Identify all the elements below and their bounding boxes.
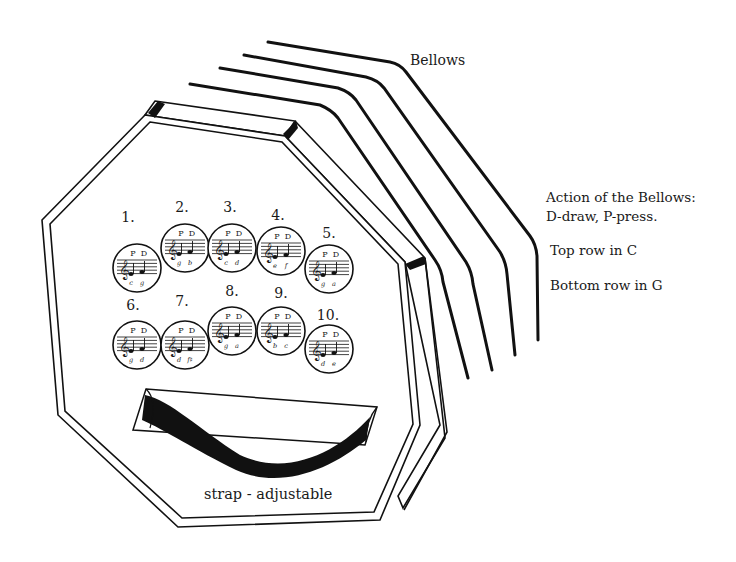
treble-clef-icon: 𝄞 bbox=[214, 321, 225, 343]
draw-marker: D bbox=[141, 326, 147, 335]
draw-marker: D bbox=[333, 330, 339, 339]
note-name: c bbox=[284, 342, 288, 350]
note-head bbox=[128, 272, 133, 276]
note-name: d bbox=[140, 356, 144, 364]
treble-clef-icon: 𝄞 bbox=[119, 258, 130, 280]
press-marker: P bbox=[178, 326, 184, 335]
press-marker: P bbox=[274, 232, 280, 241]
bottom-row-label: Bottom row in G bbox=[550, 277, 663, 293]
treble-clef-icon: 𝄞 bbox=[311, 339, 322, 361]
draw-marker: D bbox=[236, 312, 242, 321]
treble-clef-icon: 𝄞 bbox=[119, 335, 130, 357]
legend-key: D-draw, P-press. bbox=[546, 207, 696, 226]
note-name: d bbox=[177, 356, 181, 364]
draw-marker: D bbox=[141, 249, 147, 258]
note-name: c bbox=[224, 259, 228, 267]
button-number: 5. bbox=[322, 225, 335, 241]
button-number: 6. bbox=[126, 297, 139, 313]
press-marker: P bbox=[225, 312, 231, 321]
draw-marker: D bbox=[189, 229, 195, 238]
note-name: g bbox=[140, 279, 144, 287]
draw-marker: D bbox=[333, 250, 339, 259]
bellows-label: Bellows bbox=[410, 52, 465, 68]
strap-label: strap - adjustable bbox=[204, 486, 332, 502]
press-marker: P bbox=[322, 330, 328, 339]
button-number: 10. bbox=[317, 307, 339, 323]
note-head bbox=[331, 351, 336, 355]
note-name: e bbox=[273, 262, 277, 270]
note-head bbox=[272, 255, 277, 259]
note-head bbox=[283, 333, 288, 337]
treble-clef-icon: 𝄞 bbox=[263, 321, 274, 343]
note-head bbox=[139, 347, 144, 351]
note-name: a bbox=[235, 342, 239, 350]
press-marker: P bbox=[322, 250, 328, 259]
note-name: c bbox=[129, 279, 133, 287]
note-head bbox=[320, 353, 325, 357]
button-number: 8. bbox=[225, 283, 238, 299]
press-marker: P bbox=[130, 326, 136, 335]
button-number: 7. bbox=[175, 293, 188, 309]
treble-clef-icon: 𝄞 bbox=[263, 241, 274, 263]
note-name: e bbox=[332, 360, 336, 368]
top-row-label: Top row in C bbox=[550, 242, 637, 258]
note-head bbox=[331, 271, 336, 275]
note-head bbox=[128, 349, 133, 353]
note-head bbox=[187, 250, 192, 254]
bellows-legend: Action of the Bellows: D-draw, P-press. bbox=[546, 188, 696, 226]
treble-clef-icon: 𝄞 bbox=[167, 335, 178, 357]
draw-marker: D bbox=[189, 326, 195, 335]
button-number: 9. bbox=[274, 285, 287, 301]
treble-clef-icon: 𝄞 bbox=[167, 238, 178, 260]
note-name: d bbox=[235, 259, 239, 267]
note-head bbox=[234, 333, 239, 337]
draw-marker: D bbox=[285, 232, 291, 241]
treble-clef-icon: 𝄞 bbox=[311, 259, 322, 281]
note-name: f♯ bbox=[186, 356, 193, 364]
note-name: g bbox=[177, 259, 181, 267]
note-name: g bbox=[224, 342, 228, 350]
note-head bbox=[139, 270, 144, 274]
note-head bbox=[176, 252, 181, 256]
button-number: 1. bbox=[121, 209, 134, 225]
note-head bbox=[283, 253, 288, 257]
note-head bbox=[272, 335, 277, 339]
button-number: 2. bbox=[175, 199, 188, 215]
note-name: a bbox=[332, 280, 336, 288]
treble-clef-icon: 𝄞 bbox=[214, 238, 225, 260]
note-name: b bbox=[273, 342, 277, 350]
draw-marker: D bbox=[285, 312, 291, 321]
note-name: d bbox=[321, 360, 325, 368]
press-marker: P bbox=[274, 312, 280, 321]
note-name: b bbox=[188, 259, 192, 267]
note-head bbox=[320, 273, 325, 277]
press-marker: P bbox=[130, 249, 136, 258]
draw-marker: D bbox=[236, 229, 242, 238]
note-name: g bbox=[129, 356, 133, 364]
note-head bbox=[234, 250, 239, 254]
press-marker: P bbox=[178, 229, 184, 238]
note-head bbox=[176, 349, 181, 353]
note-head bbox=[223, 335, 228, 339]
note-name: g bbox=[321, 280, 325, 288]
note-head bbox=[187, 347, 192, 351]
press-marker: P bbox=[225, 229, 231, 238]
button-number: 4. bbox=[271, 207, 284, 223]
button-number: 3. bbox=[223, 199, 236, 215]
legend-title: Action of the Bellows: bbox=[546, 188, 696, 207]
note-head bbox=[223, 252, 228, 256]
